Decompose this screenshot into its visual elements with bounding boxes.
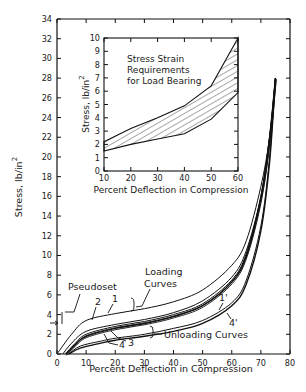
inset-x-tick-label: 20 [126, 173, 136, 183]
y-tick-label: 34 [42, 14, 52, 24]
y-tick-label: 6 [47, 290, 52, 300]
y-tick-label: 30 [42, 53, 52, 63]
inset-y-tick-label: 4 [95, 113, 100, 123]
main-y-axis-label: Stress, lb/in2 [11, 157, 24, 217]
inset-x-tick-label: 40 [179, 173, 189, 183]
loading-label-2: Curves [144, 278, 177, 289]
y-tick-label: 4 [47, 310, 52, 320]
curve-label-2: 2 [95, 296, 101, 307]
y-tick-label: 16 [42, 191, 52, 201]
y-tick-label: 26 [42, 93, 52, 103]
chart-figure: 0102030405060708002468101214161820222426… [0, 0, 306, 392]
x-tick-label: 70 [256, 358, 266, 368]
inset-title-line-1: Stress Strain [127, 54, 184, 64]
y-tick-label: 0 [47, 349, 52, 359]
y-tick-label: 32 [42, 34, 52, 44]
curve-label-1: 1 [112, 293, 118, 304]
y-tick-label: 12 [42, 231, 52, 241]
inset-y-tick-label: 7 [95, 73, 100, 83]
inset-y-tick-label: 9 [95, 46, 100, 56]
inset-title-line-2: Requirements [127, 65, 190, 75]
inset-y-tick-label: 5 [95, 100, 100, 110]
main-x-axis-label: Percent Deflection in Compression [89, 363, 253, 374]
inset-y-tick-label: 2 [95, 139, 100, 149]
y-tick-label: 14 [42, 211, 52, 221]
y-tick-label: 18 [42, 172, 52, 182]
inset-y-tick-label: 8 [95, 60, 100, 70]
y-tick-label: 10 [42, 250, 52, 260]
svg-text:Stress, lb/in2: Stress, lb/in2 [11, 157, 24, 217]
inset-x-tick-label: 30 [152, 173, 162, 183]
svg-text:Stress, lb/in2: Stress, lb/in2 [78, 75, 91, 132]
x-tick-label: 0 [54, 358, 59, 368]
inset-y-tick-label: 3 [95, 126, 100, 136]
y-tick-label: 24 [42, 113, 52, 123]
inset-x-tick-label: 50 [206, 173, 216, 183]
inset-x-axis-label: Percent Deflection in Compression [94, 185, 249, 195]
y-tick-label: 22 [42, 132, 52, 142]
inset-y-tick-label: 6 [95, 86, 100, 96]
inset-y-tick-label: 0 [95, 166, 100, 176]
y-tick-label: 28 [42, 73, 52, 83]
inset-x-tick-label: 60 [233, 173, 243, 183]
pseudoset-label: Pseudoset [68, 281, 117, 292]
inset-x-tick-label: 10 [99, 173, 109, 183]
y-tick-label: 8 [47, 270, 52, 280]
inset-y-axis-label: Stress, lb/in2 [78, 75, 91, 132]
curve-label-3: 3 [128, 337, 134, 348]
y-tick-label: 2 [47, 329, 52, 339]
x-tick-label: 80 [285, 358, 295, 368]
unloading-label: Unloading Curves [164, 329, 248, 340]
inset-y-tick-label: 10 [90, 33, 100, 43]
inset-y-tick-label: 1 [95, 153, 100, 163]
loading-label-1: Loading [145, 266, 182, 277]
inset-title-line-3: for Load Bearing [127, 76, 202, 86]
y-tick-label: 20 [42, 152, 52, 162]
curve-label-1-prime: 1' [219, 292, 228, 303]
